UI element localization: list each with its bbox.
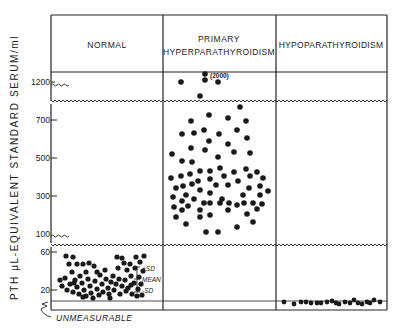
tick-700: 700: [36, 115, 50, 125]
header-hypo: HYPOPARATHYROIDISM: [279, 40, 384, 50]
tick-60: 60: [41, 247, 51, 257]
header-normal: NORMAL: [87, 40, 126, 50]
tick-20: 20: [41, 285, 51, 295]
series-primary: [168, 71, 271, 235]
axis-break-stub-100: [51, 235, 69, 237]
column-lines: [51, 15, 387, 310]
axis-break-lower: [51, 242, 387, 246]
series-normal: [57, 253, 146, 300]
unmeasurable-label: UNMEASURABLE: [56, 313, 132, 323]
minus-sd-label: -SD: [142, 287, 154, 294]
series-hypo: [282, 298, 383, 307]
header-primary-line1: PRIMARY: [198, 34, 240, 44]
axis-break-stub-1200: [51, 84, 69, 86]
unmeasurable-arrow-icon: [41, 302, 51, 317]
y-ticks: [51, 82, 57, 290]
tick-1200: 1200: [31, 77, 50, 87]
header-primary-line2: HYPERPARATHYROIDISM: [163, 47, 275, 57]
mean-label: MEAN: [142, 276, 161, 283]
tick-300: 300: [36, 191, 50, 201]
tick-500: 500: [36, 153, 50, 163]
y-axis-label: PTH µL-EQUIVALENT STANDARD SERUM/ml: [9, 35, 20, 300]
plus-sd-label: +SD: [142, 265, 155, 272]
axis-break-upper: [51, 100, 387, 104]
outlier-label: (2000): [210, 72, 229, 80]
tick-100: 100: [36, 229, 50, 239]
pth-scatter-chart: PTH µL-EQUIVALENT STANDARD SERUM/ml NORM…: [0, 0, 400, 333]
